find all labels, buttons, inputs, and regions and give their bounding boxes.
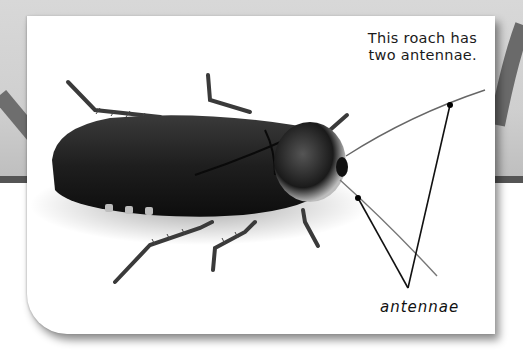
label-line-upper (408, 105, 450, 288)
callout-line-1: This roach has (368, 30, 477, 47)
antenna-upper (346, 90, 485, 156)
label-dot-lower (355, 195, 361, 201)
antennae-label: antennae (380, 298, 459, 316)
callout-line-2: two antennae. (368, 47, 477, 64)
label-dot-upper (447, 102, 453, 108)
callout-text: This roach has two antennae. (368, 30, 477, 64)
label-line-lower (358, 198, 408, 288)
